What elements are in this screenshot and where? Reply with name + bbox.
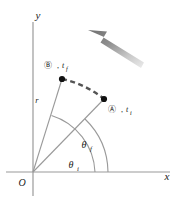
theta-i-label: θ i [69,159,79,173]
point-a-group: Ⓐ , t i [101,96,132,116]
axes-group [6,22,170,196]
point-b-dot [59,76,65,82]
theta-f-label: θ f [82,139,93,153]
theta-i-arc [85,119,108,172]
theta-f-symbol: θ [82,139,87,150]
radius-line-to-b [33,79,62,172]
point-b-marker: Ⓑ [44,61,52,70]
point-b-time-subscript: f [66,66,69,72]
circular-motion-diagram: y x O r θ f θ i Ⓑ , t f Ⓐ , t i [0,0,178,210]
radius-label: r [35,95,39,105]
point-a-time-subscript: i [130,110,132,116]
theta-i-symbol: θ [69,159,74,170]
point-b-time-label: t [62,61,65,70]
x-axis-label: x [164,170,170,182]
point-a-separator: , [121,105,123,114]
dashed-trajectory-arc [62,79,104,99]
point-b-separator: , [57,61,59,70]
point-a-marker: Ⓐ [108,105,116,114]
origin-label: O [18,177,25,188]
rotation-direction-arrow [88,30,144,68]
point-a-time-label: t [126,105,129,114]
theta-i-subscript: i [77,165,79,173]
point-a-dot [101,96,107,102]
y-axis-label: y [35,9,41,21]
theta-f-subscript: f [90,145,93,153]
